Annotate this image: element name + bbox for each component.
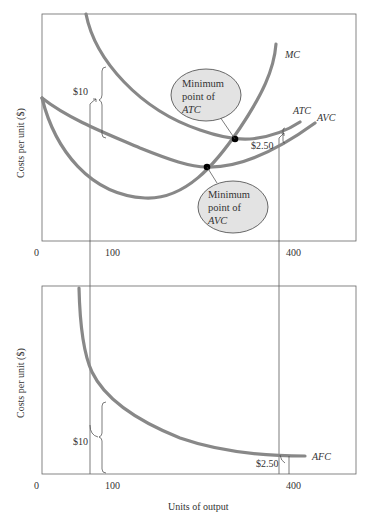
svg-text:point of: point of	[182, 91, 215, 102]
mc-label: MC	[284, 49, 300, 60]
arrow-icon	[90, 99, 96, 104]
x-tick-100-top: 100	[105, 247, 120, 258]
brace-label-250-top: $2.50	[251, 140, 274, 151]
svg-text:Minimum: Minimum	[182, 78, 224, 89]
avc-label: AVC	[316, 112, 336, 123]
brace-label-250-bottom: $2.50	[256, 458, 279, 469]
svg-text:point of: point of	[208, 202, 241, 213]
brace-label-10-bottom: $10	[73, 436, 88, 447]
atc-label: ATC	[292, 105, 311, 116]
bottom-panel-frame	[42, 286, 356, 474]
svg-text:AVC: AVC	[207, 215, 228, 226]
svg-text:ATC: ATC	[181, 104, 202, 115]
y-axis-label-top: Costs per unit ($)	[15, 108, 27, 178]
callout-min-avc: Minimum point of AVC	[198, 181, 268, 233]
x-tick-400-bottom: 400	[286, 480, 301, 491]
afc-label: AFC	[311, 451, 331, 462]
top-panel: MC ATC AVC $10 $2.50 Minimum point of AT…	[15, 14, 356, 474]
cost-curves-diagram: MC ATC AVC $10 $2.50 Minimum point of AT…	[0, 0, 372, 517]
x-axis-label: Units of output	[168, 501, 229, 512]
x-tick-400-top: 400	[286, 247, 301, 258]
callout-min-atc: Minimum point of ATC	[171, 69, 241, 121]
callout-leader-avc	[207, 167, 217, 183]
brace-10-top	[99, 67, 106, 138]
x-tick-0-top: 0	[34, 247, 39, 258]
x-tick-100-bottom: 100	[105, 480, 120, 491]
y-axis-label-bottom: Costs per unit ($)	[15, 348, 27, 418]
x-tick-0-bottom: 0	[34, 480, 39, 491]
guide-connector	[90, 425, 98, 437]
svg-text:Minimum: Minimum	[208, 189, 250, 200]
bottom-panel: AFC $10 $2.50 Costs per unit ($) 0 100 4…	[15, 286, 356, 512]
brace-10-bottom	[99, 402, 106, 473]
brace-label-10-top: $10	[73, 86, 88, 97]
afc-curve	[79, 288, 305, 456]
